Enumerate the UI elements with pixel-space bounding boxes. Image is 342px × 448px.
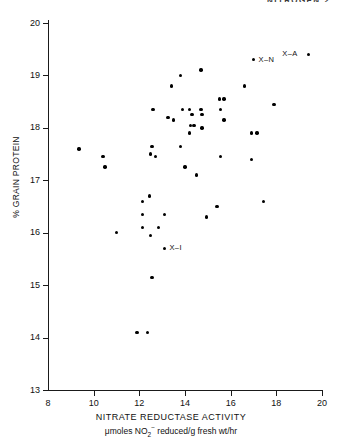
x-tick-label: 10: [82, 399, 106, 408]
data-point-label: X–N: [259, 56, 275, 64]
data-point: [148, 194, 151, 197]
scatter-plot-figure: NITROGEN 2 1314151617181920 810121416182…: [0, 0, 342, 448]
data-point: [192, 124, 195, 127]
data-point: [215, 205, 218, 208]
x-tick-mark: [322, 390, 323, 396]
x-axis-subtitle-post: reduced/g fresh wt/hr: [155, 426, 237, 436]
data-point: [101, 155, 104, 158]
data-point: [150, 276, 153, 279]
running-head: NITROGEN 2: [267, 0, 330, 2]
data-point: [199, 108, 202, 111]
y-tick-mark: [43, 390, 49, 391]
y-axis-title: % GRAIN PROTEIN: [11, 117, 21, 237]
data-point: [146, 331, 149, 334]
plot-area: [48, 23, 322, 390]
data-point: [222, 97, 225, 100]
data-point: [199, 68, 202, 71]
x-tick-mark: [276, 390, 277, 396]
y-tick-label: 18: [18, 123, 40, 132]
data-point-label: X–A: [282, 50, 297, 58]
y-tick-label: 16: [18, 228, 40, 237]
data-point: [183, 165, 186, 168]
data-point: [188, 131, 191, 134]
data-point: [200, 126, 203, 129]
data-point: [150, 145, 153, 148]
data-point: [195, 173, 198, 176]
data-point: [250, 131, 253, 134]
data-point: [151, 108, 154, 111]
x-axis-subtitle-pre: μmoles NO: [105, 426, 148, 436]
x-tick-mark: [231, 390, 232, 396]
x-axis-subtitle: μmoles NO2− reduced/g fresh wt/hr: [0, 424, 342, 438]
x-tick-label: 18: [264, 399, 288, 408]
data-point: [250, 158, 253, 161]
y-tick-label: 20: [18, 19, 40, 28]
x-tick-mark: [185, 390, 186, 396]
x-tick-label: 14: [173, 399, 197, 408]
data-point-label: X–I: [169, 244, 181, 252]
data-point: [255, 131, 258, 134]
y-tick-label: 15: [18, 281, 40, 290]
y-tick-label: 19: [18, 71, 40, 80]
x-tick-label: 8: [36, 399, 60, 408]
x-axis-title: NITRATE REDUCTASE ACTIVITY: [0, 412, 342, 422]
data-point: [172, 118, 175, 121]
x-tick-mark: [94, 390, 95, 396]
data-point: [166, 116, 169, 119]
data-point: [222, 118, 225, 121]
x-tick-label: 16: [219, 399, 243, 408]
data-point: [179, 145, 182, 148]
x-tick-mark: [139, 390, 140, 396]
x-tick-label: 20: [310, 399, 334, 408]
data-point: [103, 165, 106, 168]
data-point: [243, 84, 246, 87]
data-point: [77, 147, 80, 150]
data-point: [135, 331, 138, 334]
data-point: [170, 84, 173, 87]
y-tick-label: 13: [18, 386, 40, 395]
y-tick-label: 17: [18, 176, 40, 185]
y-tick-label: 14: [18, 333, 40, 342]
data-point: [272, 103, 275, 106]
x-tick-label: 12: [127, 399, 151, 408]
x-axis-subtitle-subscript: 2: [148, 431, 152, 438]
data-point: [218, 97, 221, 100]
